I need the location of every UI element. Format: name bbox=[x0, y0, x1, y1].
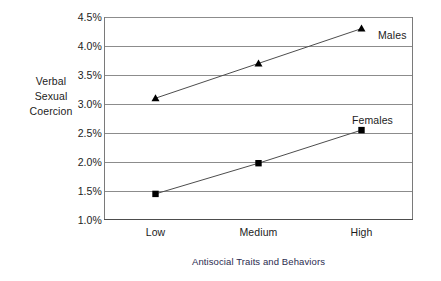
series-label-females: Females bbox=[352, 114, 393, 126]
x-axis-tick-labels: LowMediumHigh bbox=[104, 226, 413, 242]
series-label-males: Males bbox=[378, 29, 407, 41]
x-axis-title: Antisocial Traits and Behaviors bbox=[104, 256, 413, 268]
y-axis-tick-label: 1.0% bbox=[62, 215, 102, 226]
data-point-marker bbox=[255, 160, 261, 166]
y-axis-tick-label: 2.5% bbox=[62, 128, 102, 139]
data-point-marker bbox=[358, 25, 366, 32]
x-axis-tick-label: High bbox=[310, 226, 413, 238]
y-axis-tick-label: 4.0% bbox=[62, 41, 102, 52]
data-point-marker bbox=[152, 191, 158, 197]
x-axis-tick-label: Low bbox=[104, 226, 207, 238]
y-axis-tick-labels: 1.0%1.5%2.0%2.5%3.0%3.5%4.0%4.5% bbox=[60, 0, 102, 281]
x-axis-tick-label: Medium bbox=[207, 226, 310, 238]
line-chart-figure: Verbal Sexual Coercion 1.0%1.5%2.0%2.5%3… bbox=[0, 0, 441, 281]
y-axis-tick-label: 3.5% bbox=[62, 70, 102, 81]
data-point-marker bbox=[358, 127, 364, 133]
y-axis-tick-label: 4.5% bbox=[62, 12, 102, 23]
y-axis-tick-label: 1.5% bbox=[62, 186, 102, 197]
y-axis-tick-label: 3.0% bbox=[62, 99, 102, 110]
y-axis-tick-label: 2.0% bbox=[62, 157, 102, 168]
